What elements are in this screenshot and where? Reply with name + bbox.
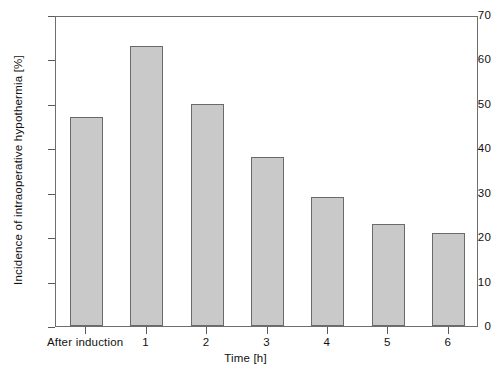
x-tick bbox=[327, 327, 328, 334]
y-axis-title: Incidence of intraoperative hypothermia … bbox=[12, 15, 24, 325]
y-tick-30 bbox=[48, 194, 55, 195]
y-tick-60 bbox=[48, 60, 55, 61]
x-axis-title: Time [h] bbox=[0, 352, 491, 364]
bars-container bbox=[56, 17, 477, 326]
bar bbox=[372, 224, 405, 326]
x-tick bbox=[85, 327, 86, 334]
y-tick-70 bbox=[48, 16, 55, 17]
x-tick-label: 3 bbox=[263, 336, 270, 349]
y-tick-20 bbox=[48, 238, 55, 239]
plot-area bbox=[55, 16, 478, 327]
x-tick-label: 5 bbox=[384, 336, 391, 349]
y-tick-50 bbox=[48, 105, 55, 106]
bar bbox=[251, 157, 284, 326]
x-tick-label: 4 bbox=[324, 336, 331, 349]
bar bbox=[70, 117, 103, 326]
x-tick-label: After induction bbox=[47, 336, 124, 349]
x-tick bbox=[448, 327, 449, 334]
x-tick bbox=[146, 327, 147, 334]
y-tick-0 bbox=[48, 327, 55, 328]
x-tick bbox=[267, 327, 268, 334]
bar-chart: Incidence of intraoperative hypothermia … bbox=[0, 0, 491, 371]
bar bbox=[191, 104, 224, 326]
x-tick-label: 6 bbox=[444, 336, 451, 349]
y-tick-40 bbox=[48, 149, 55, 150]
x-tick-label: 2 bbox=[203, 336, 210, 349]
y-tick-10 bbox=[48, 283, 55, 284]
bar bbox=[432, 233, 465, 326]
x-tick-label: 1 bbox=[142, 336, 149, 349]
bar bbox=[130, 46, 163, 326]
x-tick bbox=[206, 327, 207, 334]
bar bbox=[311, 197, 344, 326]
x-tick bbox=[387, 327, 388, 334]
